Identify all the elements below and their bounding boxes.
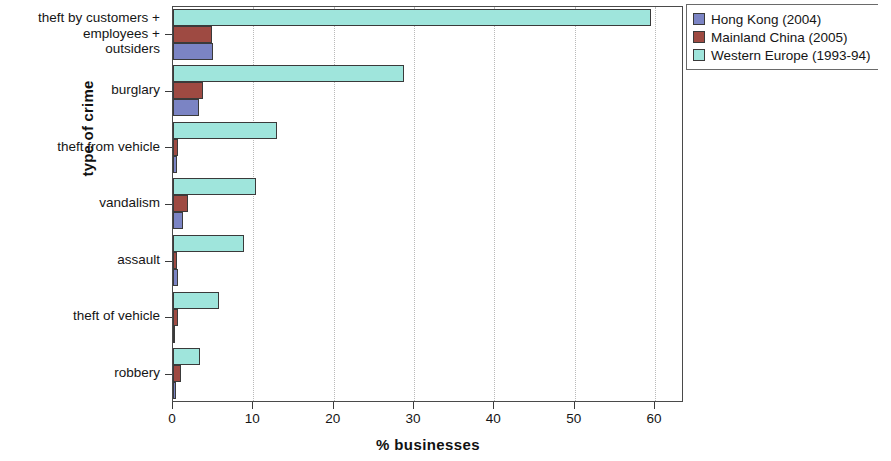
legend-item: Western Europe (1993-94) xyxy=(693,47,871,63)
plot-area xyxy=(172,6,683,402)
bar xyxy=(173,195,188,212)
bar xyxy=(173,292,219,309)
bar xyxy=(173,65,404,82)
bar-group xyxy=(173,290,682,347)
bar-chart-figure: type of crime theft by customers + emplo… xyxy=(0,0,891,461)
y-axis-tick-mark xyxy=(165,374,172,375)
bar xyxy=(173,43,213,60)
bar-group xyxy=(173,64,682,121)
y-axis-tick-mark xyxy=(165,204,172,205)
y-axis-tick-mark xyxy=(165,34,172,35)
x-axis-tick-mark xyxy=(252,402,253,409)
bar-group xyxy=(173,177,682,234)
bar xyxy=(173,156,177,173)
x-axis-tick-mark xyxy=(574,402,575,409)
x-axis-tick-mark xyxy=(493,402,494,409)
y-axis-tick-label: theft by customers + employees + outside… xyxy=(38,10,160,57)
x-axis-tick-label: 60 xyxy=(647,411,662,426)
legend-item-label: Mainland China (2005) xyxy=(711,30,848,45)
bar xyxy=(173,26,212,43)
legend-color-swatch xyxy=(693,49,705,61)
legend-item-label: Western Europe (1993-94) xyxy=(711,48,871,63)
bar xyxy=(173,348,200,365)
x-axis-tick-label: 50 xyxy=(566,411,581,426)
bar xyxy=(173,99,199,116)
y-axis-tick-group: theft by customers + employees + outside… xyxy=(0,0,172,461)
bar xyxy=(173,9,651,26)
y-axis-tick-mark xyxy=(165,147,172,148)
bars-layer xyxy=(173,7,682,401)
x-axis-tick-mark xyxy=(172,402,173,409)
x-axis-tick-label: 20 xyxy=(325,411,340,426)
y-axis-tick-mark xyxy=(165,261,172,262)
legend-item: Mainland China (2005) xyxy=(693,29,871,45)
legend: Hong Kong (2004)Mainland China (2005)Wes… xyxy=(686,4,878,70)
bar xyxy=(173,178,256,195)
bar xyxy=(173,212,183,229)
bar xyxy=(173,326,175,343)
x-axis-tick-mark xyxy=(413,402,414,409)
y-axis-tick-label: robbery xyxy=(114,365,160,381)
y-axis-tick-label: vandalism xyxy=(99,195,160,211)
legend-item-label: Hong Kong (2004) xyxy=(711,12,821,27)
legend-color-swatch xyxy=(693,13,705,25)
bar xyxy=(173,309,178,326)
bar-group xyxy=(173,233,682,290)
x-axis-tick-label: 30 xyxy=(406,411,421,426)
y-axis-tick-label: theft of vehicle xyxy=(73,308,160,324)
bar xyxy=(173,269,178,286)
y-axis-tick-mark xyxy=(165,91,172,92)
x-axis-tick-label: 10 xyxy=(245,411,260,426)
x-axis-tick-label: 40 xyxy=(486,411,501,426)
bar xyxy=(173,82,203,99)
y-axis-tick-label: burglary xyxy=(111,82,160,98)
bar-group xyxy=(173,7,682,64)
bar xyxy=(173,382,176,399)
legend-item: Hong Kong (2004) xyxy=(693,11,871,27)
bar xyxy=(173,122,277,139)
bar-group xyxy=(173,346,682,403)
bar xyxy=(173,139,178,156)
y-axis-tick-mark xyxy=(165,317,172,318)
x-axis-tick-mark xyxy=(333,402,334,409)
x-axis-tick-mark xyxy=(654,402,655,409)
legend-color-swatch xyxy=(693,31,705,43)
bar-group xyxy=(173,120,682,177)
y-axis-tick-label: assault xyxy=(117,252,160,268)
x-axis-tick-label: 0 xyxy=(168,411,176,426)
bar xyxy=(173,235,244,252)
bar xyxy=(173,365,181,382)
y-axis-tick-label: theft from vehicle xyxy=(57,139,160,155)
bar xyxy=(173,252,177,269)
x-axis-title: % businesses xyxy=(172,436,684,453)
